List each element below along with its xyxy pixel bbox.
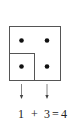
- equation: 1 + 3 = 4: [0, 106, 76, 122]
- dot-top-right: [45, 38, 50, 43]
- dot-top-left: [19, 38, 24, 43]
- dot-bottom-right: [45, 64, 50, 69]
- arrow-down-icon: [45, 84, 48, 99]
- equals-sign: =: [52, 106, 59, 122]
- equation-left-term: 1: [18, 106, 24, 122]
- equation-right-term: 3: [44, 106, 50, 122]
- arrow-down-icon: [20, 84, 23, 99]
- dot-bottom-left: [19, 64, 24, 69]
- equation-result: 4: [61, 106, 67, 122]
- plus-sign: +: [31, 106, 38, 122]
